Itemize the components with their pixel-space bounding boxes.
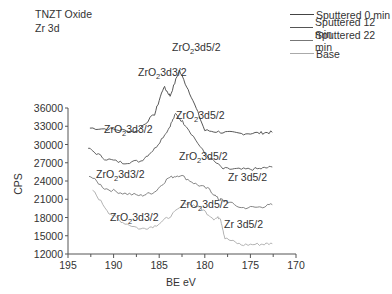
peak-annotation: ZrO23d3/2 — [96, 168, 145, 183]
y-tick-label: 15000 — [34, 230, 63, 242]
y-tick-label: 24000 — [34, 175, 63, 187]
x-tick-label: 170 — [287, 259, 305, 271]
y-tick-label: 30000 — [34, 139, 63, 151]
y-tick-label: 36000 — [34, 102, 63, 114]
peak-annotation: ZrO23d5/2 — [172, 41, 221, 56]
y-tick-label: 27000 — [34, 157, 63, 169]
y-tick-label: 21000 — [34, 193, 63, 205]
peak-annotation: ZrO23d5/2 — [179, 150, 228, 165]
y-tick-label: 33000 — [34, 120, 63, 132]
x-axis-label: BE eV — [166, 276, 196, 288]
peak-annotation: ZrO23d3/2 — [104, 123, 153, 138]
x-tick-label: 180 — [196, 259, 214, 271]
x-tick-label: 190 — [105, 259, 123, 271]
y-axis-label: CPS — [12, 173, 24, 195]
x-tick-label: 195 — [59, 259, 77, 271]
peak-annotation: Zr 3d5/2 — [228, 171, 267, 183]
y-tick-label: 18000 — [34, 212, 63, 224]
peak-annotation: ZrO23d3/2 — [138, 66, 187, 81]
x-tick-label: 175 — [242, 259, 260, 271]
x-tick-label: 185 — [150, 259, 168, 271]
peak-annotation: ZrO23d3/2 — [110, 211, 159, 226]
plot-area: 1200015000180002100024000270003000033000… — [0, 0, 392, 294]
peak-annotation: Zr 3d5/2 — [224, 218, 263, 230]
